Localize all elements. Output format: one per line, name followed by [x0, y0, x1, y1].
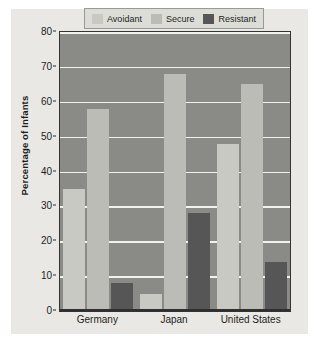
bar-resistant-japan	[188, 213, 210, 311]
y-axis-tick-20: 20	[41, 235, 52, 246]
y-axis-tick-30: 30	[41, 200, 52, 211]
bar-secure-japan	[164, 74, 186, 311]
y-axis-tick-mark-20	[53, 240, 56, 241]
y-axis-tick-60: 60	[41, 95, 52, 106]
legend-swatch-avoidant	[92, 14, 103, 24]
plot-area	[59, 31, 291, 312]
x-axis-tick-united-states: United States	[221, 314, 281, 325]
legend-item-avoidant: Avoidant	[92, 14, 142, 24]
bar-group-united-states	[213, 32, 290, 311]
legend-swatch-resistant	[203, 14, 214, 24]
y-axis-tick-mark-10	[53, 275, 56, 276]
y-axis-tick-mark-40	[53, 170, 56, 171]
legend-item-resistant: Resistant	[203, 14, 256, 24]
y-axis-tick-80: 80	[41, 26, 52, 37]
y-axis-tick-10: 10	[41, 270, 52, 281]
bar-resistant-germany	[111, 283, 133, 311]
y-axis-tick-labels: 01020304050607080	[30, 31, 56, 310]
y-axis-tick-50: 50	[41, 130, 52, 141]
legend-label-avoidant: Avoidant	[107, 14, 142, 24]
bar-chart-figure: Percentage of Infants 01020304050607080 …	[0, 0, 319, 343]
legend-swatch-secure	[151, 14, 162, 24]
bar-group-japan	[137, 32, 214, 311]
legend-item-secure: Secure	[151, 14, 195, 24]
y-axis-title: Percentage of Infants	[19, 86, 30, 206]
y-axis-tick-40: 40	[41, 165, 52, 176]
y-axis-tick-mark-70	[53, 65, 56, 66]
x-axis-tick-germany: Germany	[77, 314, 118, 325]
bar-group-germany	[60, 32, 137, 311]
chart-legend: AvoidantSecureResistant	[84, 8, 264, 29]
y-axis-tick-70: 70	[41, 60, 52, 71]
y-axis-tick-mark-80	[53, 31, 56, 32]
y-axis-tick-0: 0	[46, 305, 52, 316]
bar-avoidant-united-states	[217, 144, 239, 311]
legend-label-secure: Secure	[166, 14, 195, 24]
y-axis-tick-mark-60	[53, 100, 56, 101]
x-axis-tick-labels: GermanyJapanUnited States	[59, 314, 291, 330]
bar-avoidant-germany	[63, 189, 85, 311]
x-axis-tick-japan: Japan	[160, 314, 187, 325]
y-axis-tick-mark-50	[53, 135, 56, 136]
legend-label-resistant: Resistant	[218, 14, 256, 24]
y-axis-tick-mark-0	[53, 310, 56, 311]
x-axis-baseline	[60, 309, 290, 311]
bar-secure-united-states	[241, 84, 263, 311]
y-axis-tick-mark-30	[53, 205, 56, 206]
bar-secure-germany	[87, 109, 109, 311]
bar-resistant-united-states	[265, 262, 287, 311]
